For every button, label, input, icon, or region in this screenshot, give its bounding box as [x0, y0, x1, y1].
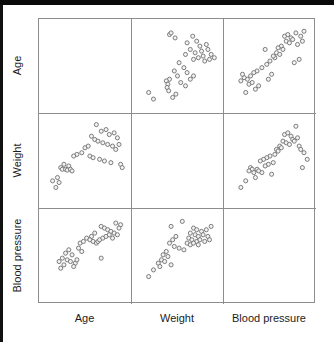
data-point — [296, 136, 300, 140]
data-point — [258, 159, 262, 163]
data-point — [147, 274, 151, 278]
data-point — [91, 156, 95, 160]
data-point — [70, 253, 74, 257]
data-point — [300, 166, 304, 170]
data-point — [240, 72, 244, 76]
data-point — [68, 259, 72, 263]
data-point — [271, 161, 275, 165]
data-point — [195, 39, 199, 43]
data-point — [167, 89, 171, 93]
data-point — [107, 132, 111, 136]
data-point — [120, 166, 124, 170]
data-point — [102, 159, 106, 163]
data-point — [158, 264, 162, 268]
data-point — [177, 246, 181, 250]
data-point — [86, 144, 90, 148]
data-point — [273, 152, 277, 156]
panel-weight-weight — [132, 114, 224, 209]
data-point — [208, 57, 212, 61]
data-point — [193, 51, 197, 55]
data-point — [64, 251, 68, 255]
data-point — [244, 179, 248, 183]
data-point — [263, 164, 267, 168]
data-point — [114, 147, 118, 151]
data-point — [72, 264, 76, 268]
row-label-weight: Weight — [8, 113, 26, 208]
data-point — [172, 69, 176, 73]
data-point — [200, 49, 204, 53]
data-point — [75, 258, 79, 262]
data-point — [305, 157, 309, 161]
data-point — [294, 31, 298, 35]
data-point — [247, 169, 251, 173]
data-point — [203, 59, 207, 63]
data-point — [253, 175, 257, 179]
data-point — [270, 172, 274, 176]
data-point — [51, 179, 55, 183]
data-point — [80, 151, 84, 155]
data-point — [212, 56, 216, 60]
data-point — [180, 219, 184, 223]
data-point — [203, 239, 207, 243]
data-point — [115, 136, 119, 140]
data-point — [266, 77, 270, 81]
panel-weight-blood-pressure — [224, 114, 316, 209]
scatter-points — [132, 19, 223, 113]
data-point — [169, 263, 173, 267]
data-point — [270, 72, 274, 76]
data-point — [184, 84, 188, 88]
data-point — [182, 248, 186, 252]
data-point — [276, 46, 280, 50]
scan-edge-bar-top — [0, 0, 334, 5]
data-point — [260, 171, 264, 175]
data-point — [278, 52, 282, 56]
data-point — [117, 226, 121, 230]
scatter-plot-matrix — [38, 18, 315, 303]
data-point — [287, 142, 291, 146]
data-point — [294, 124, 298, 128]
data-point — [185, 41, 189, 45]
data-point — [208, 238, 212, 242]
data-point — [192, 57, 196, 61]
data-point — [151, 97, 155, 101]
col-label-age: Age — [38, 310, 131, 326]
data-point — [271, 54, 275, 58]
scan-edge-bar-left — [0, 5, 3, 342]
data-point — [198, 238, 202, 242]
row-label-age: Age — [8, 18, 26, 113]
data-point — [300, 39, 304, 43]
data-point — [55, 175, 59, 179]
data-point — [169, 224, 173, 228]
data-point — [299, 34, 303, 38]
data-point — [54, 185, 58, 189]
data-point — [244, 90, 248, 94]
data-point — [302, 151, 306, 155]
data-point — [57, 259, 61, 263]
data-point — [291, 37, 295, 41]
data-point — [81, 239, 85, 243]
data-point — [201, 54, 205, 58]
panel-blood-pressure-age — [39, 209, 132, 304]
data-point — [96, 139, 100, 143]
data-point — [151, 268, 155, 272]
data-point — [167, 241, 171, 245]
data-point — [112, 131, 116, 135]
panel-blood-pressure-weight — [132, 209, 224, 304]
data-point — [115, 233, 119, 237]
data-point — [204, 228, 208, 232]
scatter-points — [39, 114, 131, 208]
data-point — [192, 74, 196, 78]
data-point — [169, 31, 173, 35]
data-point — [99, 256, 103, 260]
col-label-blood-pressure: Blood pressure — [223, 310, 315, 326]
data-point — [263, 47, 267, 51]
data-point — [94, 123, 98, 127]
data-point — [104, 127, 108, 131]
data-point — [195, 228, 199, 232]
data-point — [59, 266, 63, 270]
data-point — [209, 224, 213, 228]
data-point — [172, 244, 176, 248]
data-point — [185, 71, 189, 75]
data-point — [171, 95, 175, 99]
data-point — [163, 259, 167, 263]
